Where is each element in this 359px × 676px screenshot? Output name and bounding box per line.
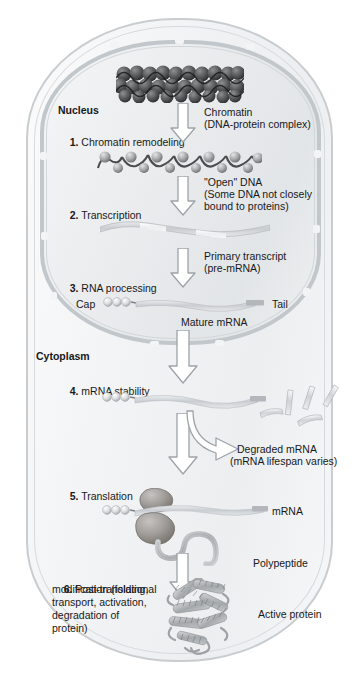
degraded-mrna-label-line-2: (mRNA lifespan varies) — [230, 455, 337, 468]
active-protein-label: Active protein — [258, 608, 322, 621]
nuclear-pore — [175, 38, 184, 44]
arrow-step-3 — [170, 248, 196, 288]
tail-label: Tail — [272, 298, 288, 311]
step-6-line-2: modification (folding, — [52, 583, 148, 596]
cytoplasm-label: Cytoplasm — [36, 350, 90, 363]
step-3-text: RNA processing — [78, 282, 156, 294]
pre-mrna-strand-graphic — [100, 216, 270, 238]
active-protein-graphic — [163, 578, 249, 658]
degraded-mrna-fragments-graphic — [258, 384, 354, 434]
step-6-line-3: transport, activation, — [52, 596, 147, 609]
open-dna-annotation-line-1: "Open" DNA — [204, 176, 262, 189]
step-6-line-4: degradation of — [52, 609, 119, 622]
primary-transcript-annotation-line-2: (pre-mRNA) — [204, 262, 261, 275]
translation-graphic — [102, 488, 302, 566]
nuclear-pore — [314, 150, 321, 158]
mrna-label: mRNA — [272, 505, 303, 518]
primary-transcript-annotation-line-1: Primary transcript — [204, 250, 286, 263]
nuclear-pore — [41, 232, 48, 240]
nuclear-pore — [246, 44, 255, 50]
gene-expression-diagram: Nucleus 1. Chromatin remodeling Chromati… — [0, 0, 359, 676]
open-dna-annotation-line-3: bound to proteins) — [204, 200, 289, 213]
open-dna-graphic — [96, 148, 262, 178]
open-dna-annotation-line-2: (Some DNA not closely — [204, 188, 312, 201]
chromatin-annotation-line-1: Chromatin — [204, 106, 252, 119]
nucleus-label: Nucleus — [58, 104, 99, 117]
arrow-step-1 — [170, 103, 196, 143]
arrow-step-2 — [170, 176, 196, 216]
step-1-text: Chromatin remodeling — [78, 136, 184, 148]
nuclear-pore — [215, 340, 224, 346]
mature-mrna-label: Mature mRNA — [181, 316, 248, 329]
nuclear-pore — [150, 341, 159, 347]
degraded-mrna-label-line-1: Degraded mRNA — [237, 443, 317, 456]
arrow-step-4 — [168, 330, 198, 384]
polypeptide-label: Polypeptide — [253, 557, 308, 570]
nuclear-pore — [313, 225, 320, 233]
chromatin-annotation-line-2: (DNA-protein complex) — [204, 118, 311, 131]
mature-mrna-graphic — [103, 296, 267, 314]
nuclear-pore — [50, 292, 57, 300]
chromatin-fiber-graphic — [116, 65, 244, 103]
nuclear-pore — [303, 288, 310, 296]
nuclear-pore — [110, 42, 119, 48]
cap-label: Cap — [76, 298, 95, 311]
step-6-line-5: protein) — [52, 622, 88, 635]
cytoplasmic-mrna-graphic — [102, 390, 268, 410]
nuclear-pore — [40, 152, 47, 160]
